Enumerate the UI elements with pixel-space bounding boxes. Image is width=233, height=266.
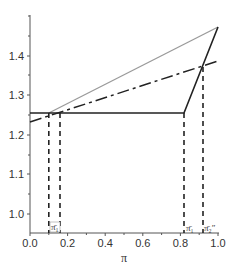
y-tick-label: 1.3 bbox=[9, 89, 24, 101]
x-tick-labels: 0.0 0.2 0.4 0.6 0.8 1.0 bbox=[22, 237, 225, 249]
x-tick-label: 0.4 bbox=[98, 237, 113, 249]
vertical-markers bbox=[49, 67, 203, 233]
x-tick-label: 0.6 bbox=[135, 237, 150, 249]
y-tick-labels: 1.4 1.3 1.2 1.1 1.0 bbox=[9, 50, 24, 220]
annotation-pi2: π̄₂″ bbox=[204, 223, 216, 233]
x-axis-title: π bbox=[121, 251, 127, 265]
chart: 1.4 1.3 1.2 1.1 1.0 0.0 0.2 0.4 0.6 0.8 … bbox=[0, 0, 233, 266]
x-tick-label: 0.8 bbox=[173, 237, 188, 249]
x-tick-label: 0.2 bbox=[60, 237, 75, 249]
annotation-pi-small: π̄₁ bbox=[51, 222, 59, 232]
x-tick-label: 1.0 bbox=[210, 237, 225, 249]
y-tick-label: 1.1 bbox=[9, 168, 24, 180]
x-tick-label: 0.0 bbox=[22, 237, 37, 249]
annotation-pi1: π̄₁ bbox=[186, 223, 194, 233]
y-tick-label: 1.2 bbox=[9, 129, 24, 141]
y-tick-label: 1.0 bbox=[9, 208, 24, 220]
y-tick-label: 1.4 bbox=[9, 50, 24, 62]
